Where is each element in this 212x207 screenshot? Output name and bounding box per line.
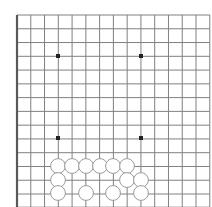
stone-white xyxy=(134,186,149,201)
go-board-diagram xyxy=(0,0,212,207)
star-point-upper-right xyxy=(139,54,143,58)
board-background xyxy=(0,0,212,207)
stone-white xyxy=(106,186,121,201)
stone-white xyxy=(51,186,66,201)
stone-white xyxy=(79,186,94,201)
stone-white xyxy=(106,159,121,174)
stone-white xyxy=(120,159,135,174)
star-point-lower-left xyxy=(56,136,60,140)
stone-white xyxy=(79,159,94,174)
stone-white xyxy=(51,159,66,174)
stone-white xyxy=(120,173,135,188)
go-board-canvas xyxy=(0,0,212,207)
star-point-lower-right xyxy=(139,136,143,140)
star-point-upper-left xyxy=(56,54,60,58)
stone-white xyxy=(65,159,80,174)
